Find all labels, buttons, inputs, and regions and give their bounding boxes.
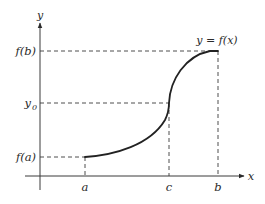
fb-label: f(b)	[14, 44, 36, 58]
y-axis-label: y	[36, 9, 44, 22]
y0-label-main: y	[24, 96, 32, 110]
c-label: c	[166, 180, 173, 194]
fa-label: f(a)	[15, 150, 36, 164]
a-label: a	[82, 180, 89, 194]
y0-label: y	[24, 96, 32, 110]
function-curve	[85, 51, 218, 157]
function-graph-diagram: f(b) y 0 f(a) a c b x y y = f(x)	[0, 0, 265, 204]
y0-subscript: 0	[32, 103, 37, 112]
b-label: b	[214, 180, 221, 194]
x-axis-label: x	[248, 169, 255, 183]
curve-label: y = f(x)	[195, 34, 237, 47]
